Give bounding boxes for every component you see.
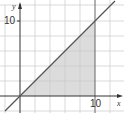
x-axis-arrow-icon (117, 94, 123, 98)
y-tick-label: 10 (4, 15, 16, 26)
coordinate-plane: 10 10 y x (0, 0, 124, 113)
x-tick-label: 10 (90, 98, 102, 109)
y-axis-label: y (11, 2, 16, 11)
x-axis-label: x (116, 99, 121, 108)
y-axis-arrow-icon (18, 2, 22, 9)
